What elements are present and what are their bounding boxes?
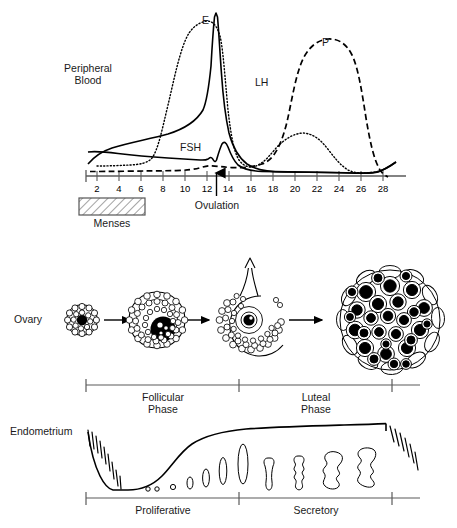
menses-label: Menses	[82, 217, 142, 229]
follicle-developing	[126, 291, 188, 349]
x-tick-8: 8	[158, 183, 168, 194]
endometrium-shedding-right	[390, 426, 418, 470]
follicular-phase-label: Follicular Phase	[128, 391, 198, 415]
x-tick-4: 4	[114, 183, 124, 194]
endometrium-panel	[86, 424, 420, 505]
fsh-curve-label: FSH	[180, 141, 201, 153]
peripheral-blood-label: Peripheral Blood	[46, 62, 130, 86]
x-tick-18: 18	[266, 183, 280, 194]
x-tick-10: 10	[178, 183, 192, 194]
luteal-phase-label: Luteal Phase	[281, 391, 351, 415]
curve-fsh	[88, 142, 396, 173]
figure-root: Peripheral Blood E LH FSH P 2 4 6 8 10 1…	[0, 0, 457, 528]
curve-estrogen	[97, 21, 376, 173]
follicle-ovulating	[216, 258, 284, 356]
x-tick-14: 14	[221, 183, 235, 194]
secretory-phase-label: Secretory	[281, 504, 351, 516]
endometrium-glands	[146, 444, 376, 491]
lh-curve-label: LH	[255, 76, 268, 88]
menses-box	[79, 198, 145, 215]
x-tick-22: 22	[310, 183, 324, 194]
ovum-release-arrow	[240, 258, 258, 296]
x-tick-12: 12	[200, 183, 214, 194]
progesterone-curve-label: P	[322, 36, 329, 48]
x-tick-6: 6	[136, 183, 146, 194]
follicle-primordial	[65, 303, 100, 336]
x-tick-28: 28	[376, 183, 390, 194]
endometrium-row-label: Endometrium	[10, 425, 72, 437]
ovary-row-label: Ovary	[14, 313, 42, 325]
estrogen-curve-label: E	[202, 14, 209, 26]
curve-lh	[88, 13, 396, 173]
corpus-luteum	[336, 266, 445, 376]
endometrium-surface-line	[88, 424, 386, 490]
hormone-x-axis	[86, 170, 406, 182]
ovary-panel	[65, 258, 446, 392]
ovulation-label: Ovulation	[186, 199, 248, 211]
x-tick-16: 16	[244, 183, 258, 194]
proliferative-phase-label: Proliferative	[128, 504, 198, 516]
x-tick-2: 2	[92, 183, 102, 194]
x-tick-20: 20	[288, 183, 302, 194]
x-tick-24: 24	[332, 183, 346, 194]
x-tick-26: 26	[354, 183, 368, 194]
